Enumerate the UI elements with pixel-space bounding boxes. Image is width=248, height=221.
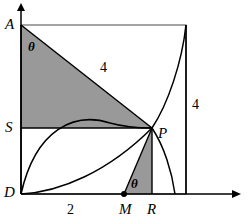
label-length-hypotenuse: 4 (100, 61, 107, 75)
label-angle-theta-top: θ (28, 40, 35, 53)
label-point-d: D (4, 185, 15, 200)
label-length-right-side: 4 (192, 98, 199, 112)
geometry-canvas (0, 0, 248, 221)
label-point-p: P (158, 126, 167, 141)
label-point-a: A (5, 17, 14, 32)
x-axis-arrowhead-icon (232, 190, 241, 198)
label-point-r: R (147, 202, 156, 217)
point-marker-m (121, 191, 127, 197)
curve-p-to-corner (152, 25, 186, 128)
label-point-s: S (5, 120, 13, 135)
label-length-dm: 2 (67, 203, 74, 217)
y-axis-arrowhead-icon (17, 3, 25, 11)
label-point-m: M (119, 202, 132, 217)
geometry-figure: A S D M R P θ θ 4 4 2 (0, 0, 248, 221)
label-angle-theta-bottom: θ (131, 177, 138, 190)
